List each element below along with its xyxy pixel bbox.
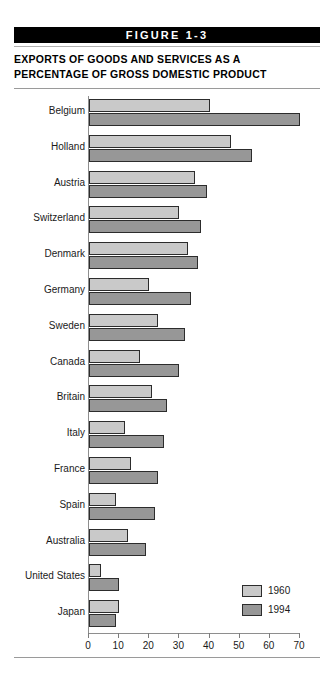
x-axis-tick-label: 10 — [103, 640, 133, 651]
x-axis-tick-label: 30 — [163, 640, 193, 651]
bar-row: Canada — [0, 347, 333, 383]
bar-1960 — [89, 171, 195, 184]
bar-1994 — [89, 364, 179, 377]
divider-top — [14, 46, 320, 47]
x-axis-tick — [239, 633, 240, 638]
x-axis-tick — [209, 633, 210, 638]
bar-row: Sweden — [0, 311, 333, 347]
divider-middle — [14, 88, 320, 89]
bar-1994 — [89, 292, 191, 305]
x-axis-tick-label: 40 — [194, 640, 224, 651]
bar-1994 — [89, 256, 198, 269]
category-label: Switzerland — [0, 212, 85, 223]
x-axis-tick-label: 0 — [73, 640, 103, 651]
bar-1960 — [89, 206, 179, 219]
legend-label: 1960 — [268, 585, 290, 596]
bar-1960 — [89, 350, 140, 363]
bar-1960 — [89, 314, 158, 327]
bar-1960 — [89, 278, 149, 291]
x-axis-tick — [118, 633, 119, 638]
figure-banner-label: FIGURE 1-3 — [126, 29, 209, 41]
x-axis-tick — [178, 633, 179, 638]
bar-1994 — [89, 113, 300, 126]
bar-1960 — [89, 600, 119, 613]
bar-row: Holland — [0, 132, 333, 168]
category-label: United States — [0, 570, 85, 581]
chart-legend: 19601994 — [242, 582, 322, 620]
bar-row: Italy — [0, 418, 333, 454]
bar-1994 — [89, 614, 116, 627]
category-label: Germany — [0, 284, 85, 295]
bar-row: Germany — [0, 275, 333, 311]
bar-row: Belgium — [0, 96, 333, 132]
bar-1960 — [89, 99, 210, 112]
bar-row: Spain — [0, 490, 333, 526]
x-axis-tick — [148, 633, 149, 638]
bar-1960 — [89, 135, 231, 148]
category-label: Belgium — [0, 105, 85, 116]
x-axis-tick-label: 50 — [224, 640, 254, 651]
legend-item: 1960 — [242, 582, 322, 599]
x-axis-tick — [269, 633, 270, 638]
bar-1994 — [89, 543, 146, 556]
page-title-line-1: EXPORTS OF GOODS AND SERVICES AS A — [14, 52, 320, 67]
page-title-line-2: PERCENTAGE OF GROSS DOMESTIC PRODUCT — [14, 67, 320, 82]
x-axis-tick-label: 70 — [284, 640, 314, 651]
x-axis-tick — [299, 633, 300, 638]
page-title: EXPORTS OF GOODS AND SERVICES AS A PERCE… — [14, 52, 320, 82]
bar-1994 — [89, 399, 167, 412]
x-axis-tick — [88, 633, 89, 638]
chart-plot-area: BelgiumHollandAustriaSwitzerlandDenmarkG… — [0, 96, 333, 644]
category-label: Austria — [0, 177, 85, 188]
bar-1994 — [89, 328, 185, 341]
category-label: Australia — [0, 535, 85, 546]
category-label: Denmark — [0, 248, 85, 259]
bar-1960 — [89, 457, 131, 470]
bar-row: Britain — [0, 382, 333, 418]
category-label: Canada — [0, 356, 85, 367]
figure-banner: FIGURE 1-3 — [14, 27, 320, 43]
legend-swatch — [242, 604, 262, 616]
divider-bottom — [14, 657, 320, 658]
category-label: Holland — [0, 141, 85, 152]
category-label: France — [0, 463, 85, 474]
category-label: Sweden — [0, 320, 85, 331]
bar-1994 — [89, 471, 158, 484]
bar-1994 — [89, 435, 164, 448]
bar-1960 — [89, 242, 188, 255]
bar-1994 — [89, 149, 252, 162]
bar-1960 — [89, 493, 116, 506]
bar-row: Austria — [0, 168, 333, 204]
bar-row: Denmark — [0, 239, 333, 275]
bar-1960 — [89, 385, 152, 398]
bar-1994 — [89, 507, 155, 520]
x-axis-tick-label: 60 — [254, 640, 284, 651]
bar-row: Australia — [0, 526, 333, 562]
bar-1960 — [89, 421, 125, 434]
bar-1994 — [89, 578, 119, 591]
bar-1960 — [89, 564, 101, 577]
bar-1960 — [89, 529, 128, 542]
legend-label: 1994 — [268, 604, 290, 615]
category-label: Italy — [0, 427, 85, 438]
category-label: Britain — [0, 391, 85, 402]
legend-swatch — [242, 585, 262, 597]
bar-1994 — [89, 185, 207, 198]
category-label: Japan — [0, 606, 85, 617]
bar-rows: BelgiumHollandAustriaSwitzerlandDenmarkG… — [0, 96, 333, 633]
bar-1994 — [89, 220, 201, 233]
x-axis-tick-label: 20 — [133, 640, 163, 651]
category-label: Spain — [0, 499, 85, 510]
bar-row: Switzerland — [0, 203, 333, 239]
x-axis-ticks: 010203040506070 — [0, 633, 333, 663]
legend-item: 1994 — [242, 601, 322, 618]
bar-row: France — [0, 454, 333, 490]
